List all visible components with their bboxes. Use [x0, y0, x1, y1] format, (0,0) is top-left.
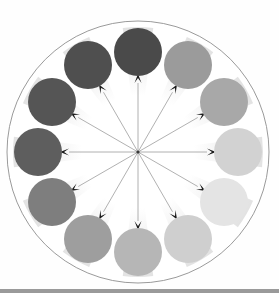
node-circle-5-o-clock[interactable]: [164, 215, 212, 263]
node-circle-11-o-clock[interactable]: [64, 41, 112, 89]
bottom-status-bar: [0, 289, 279, 293]
node-circle-9-o-clock[interactable]: [14, 128, 62, 176]
hub-layer: [136, 150, 139, 153]
radial-diagram: [0, 0, 279, 293]
node-circle-12-o-clock[interactable]: [114, 28, 162, 76]
node-circle-8-o-clock[interactable]: [28, 178, 76, 226]
node-circle-6-o-clock[interactable]: [114, 228, 162, 276]
node-circle-1-o-clock[interactable]: [164, 41, 212, 89]
diagram-canvas: [0, 0, 279, 293]
node-circle-7-o-clock[interactable]: [64, 215, 112, 263]
node-circle-4-o-clock[interactable]: [200, 178, 248, 226]
node-circle-10-o-clock[interactable]: [28, 78, 76, 126]
node-circle-3-o-clock[interactable]: [214, 128, 262, 176]
node-circle-2-o-clock[interactable]: [200, 78, 248, 126]
hub-origin-dot: [136, 150, 139, 153]
